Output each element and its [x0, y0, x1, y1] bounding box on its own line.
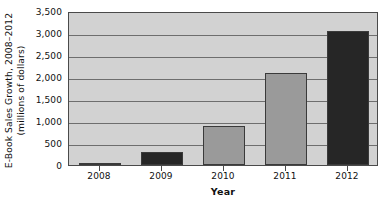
y-axis-tick-label: 1,000 [36, 117, 62, 127]
bar [327, 31, 369, 165]
bar [203, 126, 245, 165]
x-axis-tick-label: 2011 [273, 171, 296, 181]
y-axis-tick-label: 0 [56, 161, 62, 171]
y-axis-tick-labels: 05001,0001,5002,0002,5003,0003,500 [24, 0, 66, 203]
x-axis-tick-label: 2010 [211, 171, 234, 181]
x-axis-tick-label: 2009 [149, 171, 172, 181]
plot-area [68, 12, 378, 166]
bar [79, 163, 121, 165]
y-axis-tick-label: 1,500 [36, 95, 62, 105]
x-axis-tick-labels: 20082009201020112012 [68, 171, 378, 185]
bar [141, 152, 183, 165]
y-axis-title-line-1: E-Book Sales Growth, 2008–2012 [4, 12, 16, 167]
x-axis-tick-label: 2012 [335, 171, 358, 181]
y-axis-tick-label: 500 [45, 139, 62, 149]
y-axis-tick-label: 3,500 [36, 7, 62, 17]
y-axis-tick-label: 3,000 [36, 29, 62, 39]
x-axis-tick-label: 2008 [87, 171, 110, 181]
y-axis-tick-label: 2,000 [36, 73, 62, 83]
bar-chart: E-Book Sales Growth, 2008–2012 (millions… [0, 0, 390, 203]
bar [265, 73, 307, 165]
bars-layer [69, 13, 377, 165]
y-axis-tick-label: 2,500 [36, 51, 62, 61]
x-axis-title: Year [68, 186, 378, 197]
